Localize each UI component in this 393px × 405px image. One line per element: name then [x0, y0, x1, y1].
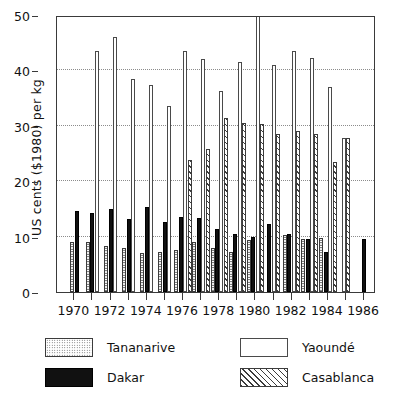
- legend-label: Yaoundé: [302, 336, 355, 360]
- bar-casablanca-1978: [224, 118, 228, 293]
- bar-casablanca-1976: [188, 160, 192, 292]
- bar-tananarive-1980: [247, 240, 251, 292]
- bar-yaound-1972: [113, 37, 117, 292]
- x-axis-tick-label: 1980: [239, 303, 271, 318]
- bar-casablanca-1979: [242, 123, 246, 292]
- bar-casablanca-1984: [333, 162, 337, 292]
- plot-area: [56, 16, 375, 293]
- bar-yaound-1984: [328, 87, 332, 292]
- x-axis-tick-label: 1974: [130, 303, 162, 318]
- bar-tananarive-1978: [211, 248, 215, 292]
- bar-tananarive-1975: [158, 252, 162, 292]
- x-axis-tick: [146, 293, 147, 300]
- x-axis-tick: [327, 293, 328, 300]
- bar-dakar-1982: [287, 234, 291, 292]
- y-axis-tick-label: 10: [14, 230, 30, 245]
- bar-dakar-1973: [127, 219, 131, 292]
- bar-yaound-1976: [183, 51, 187, 292]
- bar-casablanca-1981: [276, 134, 280, 292]
- bar-dakar-1976: [179, 217, 183, 292]
- x-axis-tick-labels: 197019721974197619781980198219841986: [0, 303, 393, 323]
- bar-dakar-1977: [197, 218, 201, 292]
- bar-casablanca-1977: [206, 149, 210, 292]
- stipple-swatch: [45, 338, 93, 357]
- x-axis-tick: [273, 293, 274, 300]
- bar-dakar-1978: [215, 229, 219, 292]
- x-axis-tick: [128, 293, 129, 300]
- x-axis-ticks: [56, 293, 375, 302]
- bar-yaound-1980: [256, 16, 260, 292]
- y-axis-tick: [32, 293, 38, 294]
- bar-tananarive-1984: [319, 238, 323, 292]
- bar-casablanca-1983: [314, 134, 318, 292]
- bar-dakar-1984: [324, 252, 328, 292]
- bar-tananarive-1979: [229, 252, 233, 292]
- bar-yaound-1985: [342, 138, 346, 292]
- legend-label: Tananarive: [107, 336, 175, 360]
- bar-dakar-1974: [145, 207, 149, 292]
- y-axis-tick-label: 50: [14, 9, 30, 24]
- x-axis-tick-label: 1970: [57, 303, 89, 318]
- white-swatch: [240, 338, 288, 357]
- x-axis-tick-label: 1976: [166, 303, 198, 318]
- x-axis-tick-label: 1972: [94, 303, 126, 318]
- x-axis-tick: [110, 293, 111, 300]
- bar-tananarive-1972: [104, 246, 108, 292]
- x-axis-tick: [363, 293, 364, 300]
- bar-yaound-1971: [95, 51, 99, 292]
- bar-yaound-1977: [201, 59, 205, 292]
- bar-yaound-1978: [219, 91, 223, 292]
- y-axis-tick-label: 40: [14, 64, 30, 79]
- bar-tananarive-1970: [70, 242, 74, 292]
- x-axis-tick: [182, 293, 183, 300]
- y-axis-tick: [32, 238, 38, 239]
- bars-container: [57, 17, 374, 292]
- bar-tananarive-1971: [86, 242, 90, 292]
- bar-dakar-1971: [90, 213, 94, 292]
- bar-tananarive-1973: [122, 248, 126, 292]
- bar-tananarive-1977: [192, 242, 196, 292]
- y-axis-tick-label: 30: [14, 119, 30, 134]
- y-axis-tick-label: 20: [14, 175, 30, 190]
- y-axis-tick: [32, 16, 38, 17]
- bar-yaound-1974: [149, 85, 153, 292]
- bar-casablanca-1985: [346, 138, 350, 292]
- bar-dakar-1972: [109, 209, 113, 292]
- x-axis-tick: [254, 293, 255, 300]
- bar-tananarive-1982: [283, 235, 287, 292]
- bar-casablanca-1980: [260, 124, 264, 292]
- bar-dakar-1979: [233, 234, 237, 292]
- bar-dakar-1975: [163, 222, 167, 292]
- diagonal-hatch-swatch: [240, 368, 288, 387]
- bar-dakar-1980: [251, 237, 255, 292]
- legend-label: Dakar: [107, 366, 144, 390]
- x-axis-tick-label: 1982: [275, 303, 307, 318]
- legend-label: Casablanca: [302, 366, 374, 390]
- bar-tananarive-1983: [301, 239, 305, 292]
- y-axis-ticks: 01020304050: [0, 0, 56, 310]
- chart-legend: TananariveYaoundéDakarCasablanca: [0, 336, 393, 398]
- x-axis-tick-label: 1986: [347, 303, 379, 318]
- x-axis-tick: [91, 293, 92, 300]
- y-axis-tick-label: 0: [22, 286, 30, 301]
- y-axis-tick: [32, 71, 38, 72]
- x-axis-tick: [73, 293, 74, 300]
- bar-yaound-1973: [131, 79, 135, 292]
- y-axis-tick: [32, 127, 38, 128]
- y-axis-tick: [32, 182, 38, 183]
- bar-tananarive-1974: [140, 253, 144, 292]
- bar-casablanca-1982: [296, 131, 300, 292]
- bar-dakar-1981: [267, 224, 271, 292]
- bar-dakar-1983: [306, 239, 310, 292]
- bar-yaound-1979: [238, 62, 242, 292]
- x-axis-tick: [291, 293, 292, 300]
- x-axis-tick: [164, 293, 165, 300]
- bar-yaound-1981: [272, 65, 276, 292]
- x-axis-tick: [236, 293, 237, 300]
- x-axis-tick-label: 1978: [202, 303, 234, 318]
- bar-dakar-1986: [362, 239, 366, 292]
- x-axis-tick: [218, 293, 219, 300]
- bar-chart-figure: US cents ($1980) per kg 01020304050 1970…: [0, 0, 393, 405]
- x-axis-tick: [309, 293, 310, 300]
- x-axis-tick: [200, 293, 201, 300]
